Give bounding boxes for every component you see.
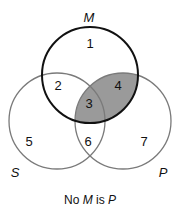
region-label-2: 2 [54,79,61,92]
proposition-caption: No M is P [0,194,180,206]
region-label-5: 5 [25,135,32,148]
set-label-p: P [159,166,168,179]
region-label-7: 7 [140,135,147,148]
set-label-m: M [84,11,95,24]
region-label-1: 1 [86,37,93,50]
region-label-6: 6 [84,135,91,148]
region-label-4: 4 [114,79,121,92]
set-label-s: S [11,166,20,179]
region-label-3: 3 [85,97,92,110]
venn-diagram: M S P 1 2 3 4 5 6 7 No M is P [0,0,180,209]
